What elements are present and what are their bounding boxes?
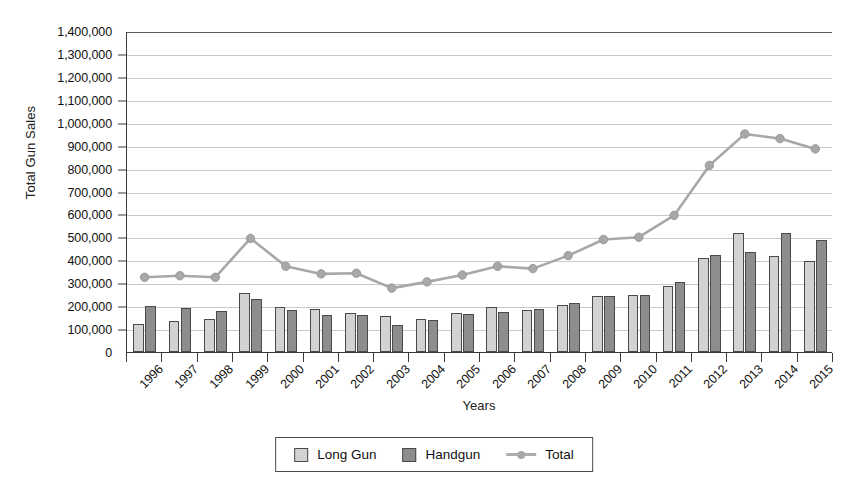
y-axis-tick-label: 300,000 — [68, 277, 113, 291]
total-marker-2013 — [741, 130, 749, 138]
x-axis-tick-label-2005: 2005 — [454, 362, 483, 391]
y-axis-tick-mark — [118, 100, 126, 101]
gun-sales-chart: Total Gun Sales 1,400,0001,300,0001,200,… — [0, 0, 868, 502]
x-axis-tick-mark — [761, 353, 762, 362]
y-axis-tick-label: 200,000 — [68, 300, 113, 314]
total-line-layer — [127, 32, 832, 352]
total-marker-1998 — [211, 273, 219, 281]
total-marker-2015 — [811, 145, 819, 153]
y-axis-tick-label: 500,000 — [68, 231, 113, 245]
y-axis-tick-label: 400,000 — [68, 254, 113, 268]
x-axis-ticks — [126, 353, 832, 362]
legend-swatch-total-line-icon — [506, 448, 536, 462]
total-marker-2014 — [776, 134, 784, 142]
y-axis-tick-mark — [118, 307, 126, 308]
legend-swatch-long-gun-icon — [294, 448, 308, 462]
y-axis-tick-mark — [118, 54, 126, 55]
y-axis-tick-label: 1,000,000 — [57, 117, 112, 131]
x-axis-tick-mark — [832, 353, 833, 362]
total-marker-1996 — [140, 273, 148, 281]
x-axis-tick-label-2012: 2012 — [701, 362, 730, 391]
x-axis-tick-mark — [585, 353, 586, 362]
y-axis-tick-labels: 1,400,0001,300,0001,200,0001,100,0001,00… — [0, 32, 126, 353]
total-marker-2009 — [599, 235, 607, 243]
x-axis-tick-label-2011: 2011 — [666, 362, 695, 391]
total-marker-1997 — [176, 272, 184, 280]
x-axis-tick-mark — [550, 353, 551, 362]
x-axis-title: Years — [126, 398, 832, 413]
x-axis-tick-label-2007: 2007 — [525, 362, 554, 391]
total-marker-2008 — [564, 251, 572, 259]
x-axis-tick-mark — [797, 353, 798, 362]
y-axis-tick-mark — [118, 192, 126, 193]
x-axis-tick-mark — [656, 353, 657, 362]
y-axis-tick-mark — [118, 215, 126, 216]
x-axis-tick-mark — [691, 353, 692, 362]
y-axis-tick-mark — [118, 284, 126, 285]
x-axis-tick-mark — [726, 353, 727, 362]
x-axis-tick-label-2006: 2006 — [489, 362, 518, 391]
x-axis-tick-label-2000: 2000 — [277, 362, 306, 391]
x-axis-tick-label-2013: 2013 — [736, 362, 765, 391]
x-axis-tick-mark — [408, 353, 409, 362]
y-axis-tick-mark — [118, 123, 126, 124]
y-axis-tick-mark — [118, 238, 126, 239]
x-axis-tick-label-2002: 2002 — [348, 362, 377, 391]
y-axis-tick-label: 0 — [105, 346, 112, 360]
total-line — [145, 134, 816, 288]
x-axis-tick-mark — [373, 353, 374, 362]
x-axis-tick-label-2014: 2014 — [772, 362, 801, 391]
chart-legend: Long Gun Handgun Total — [275, 437, 593, 472]
y-axis-tick-label: 900,000 — [68, 140, 113, 154]
total-marker-2007 — [529, 264, 537, 272]
y-axis-tick-mark — [118, 146, 126, 147]
x-axis-tick-label-2004: 2004 — [419, 362, 448, 391]
x-axis-tick-mark — [479, 353, 480, 362]
y-axis-tick-label: 1,300,000 — [57, 48, 112, 62]
total-line-svg — [127, 32, 833, 353]
total-marker-2002 — [352, 269, 360, 277]
x-axis-tick-label-2015: 2015 — [807, 362, 836, 391]
total-marker-2000 — [282, 262, 290, 270]
x-axis-tick-mark — [267, 353, 268, 362]
x-axis-tick-mark — [338, 353, 339, 362]
x-axis-tick-mark — [126, 353, 127, 362]
x-axis-tick-label-2008: 2008 — [560, 362, 589, 391]
total-marker-2011 — [670, 211, 678, 219]
y-axis-tick-label: 100,000 — [68, 323, 113, 337]
legend-item-handgun: Handgun — [402, 447, 480, 462]
y-axis-tick-mark — [118, 330, 126, 331]
y-axis-tick-mark — [118, 169, 126, 170]
total-marker-2010 — [635, 233, 643, 241]
total-marker-2005 — [458, 271, 466, 279]
total-marker-2001 — [317, 270, 325, 278]
legend-item-total: Total — [506, 447, 574, 462]
total-marker-2006 — [493, 262, 501, 270]
x-axis-tick-mark — [232, 353, 233, 362]
x-axis-tick-label-1998: 1998 — [207, 362, 236, 391]
x-axis-tick-label-1999: 1999 — [242, 362, 271, 391]
x-axis-tick-mark — [444, 353, 445, 362]
x-axis-tick-mark — [197, 353, 198, 362]
x-axis-tick-mark — [514, 353, 515, 362]
x-axis-tick-label-1996: 1996 — [136, 362, 165, 391]
x-axis-tick-label-2001: 2001 — [313, 362, 342, 391]
x-axis-tick-mark — [161, 353, 162, 362]
y-axis-tick-mark — [118, 77, 126, 78]
x-axis-tick-labels: 1996199719981999200020012002200320042005… — [126, 362, 832, 402]
legend-label-handgun: Handgun — [425, 447, 480, 462]
total-marker-1999 — [246, 234, 254, 242]
plot-area — [126, 32, 832, 353]
x-axis-tick-label-2009: 2009 — [595, 362, 624, 391]
x-axis-tick-mark — [303, 353, 304, 362]
legend-label-total: Total — [545, 447, 574, 462]
y-axis-tick-label: 800,000 — [68, 163, 113, 177]
x-axis-tick-label-1997: 1997 — [172, 362, 201, 391]
x-axis-tick-mark — [620, 353, 621, 362]
y-axis-tick-label: 1,100,000 — [57, 94, 112, 108]
x-axis-tick-label-2010: 2010 — [630, 362, 659, 391]
legend-item-long-gun: Long Gun — [294, 447, 376, 462]
legend-swatch-handgun-icon — [402, 448, 416, 462]
y-axis-tick-label: 1,200,000 — [57, 71, 112, 85]
y-axis-tick-label: 700,000 — [68, 186, 113, 200]
